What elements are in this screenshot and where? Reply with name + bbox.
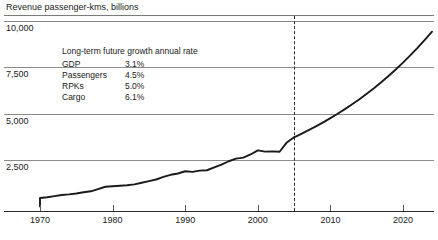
x-axis-tick-label: 1980 — [103, 215, 123, 226]
data-series-layer — [0, 0, 438, 240]
chart-container: Revenue passenger-kms, billions 10,0007,… — [0, 0, 438, 240]
x-axis-tick — [403, 205, 404, 211]
x-axis-tick — [113, 205, 114, 211]
x-axis-tick-label: 2000 — [248, 215, 268, 226]
forecast-series-line — [294, 32, 432, 138]
x-axis-tick — [330, 205, 331, 211]
x-axis-tick — [185, 205, 186, 211]
x-axis-tick-label: 1970 — [30, 215, 50, 226]
x-axis-tick — [258, 205, 259, 211]
x-axis-tick — [40, 205, 41, 211]
x-axis-tick-label: 1990 — [175, 215, 195, 226]
forecast-divider-line — [294, 16, 295, 211]
x-axis-tick-label: 2010 — [320, 215, 340, 226]
x-axis-tick-label: 2020 — [393, 215, 413, 226]
historical-series-line — [40, 137, 294, 206]
x-axis-line — [4, 211, 434, 212]
